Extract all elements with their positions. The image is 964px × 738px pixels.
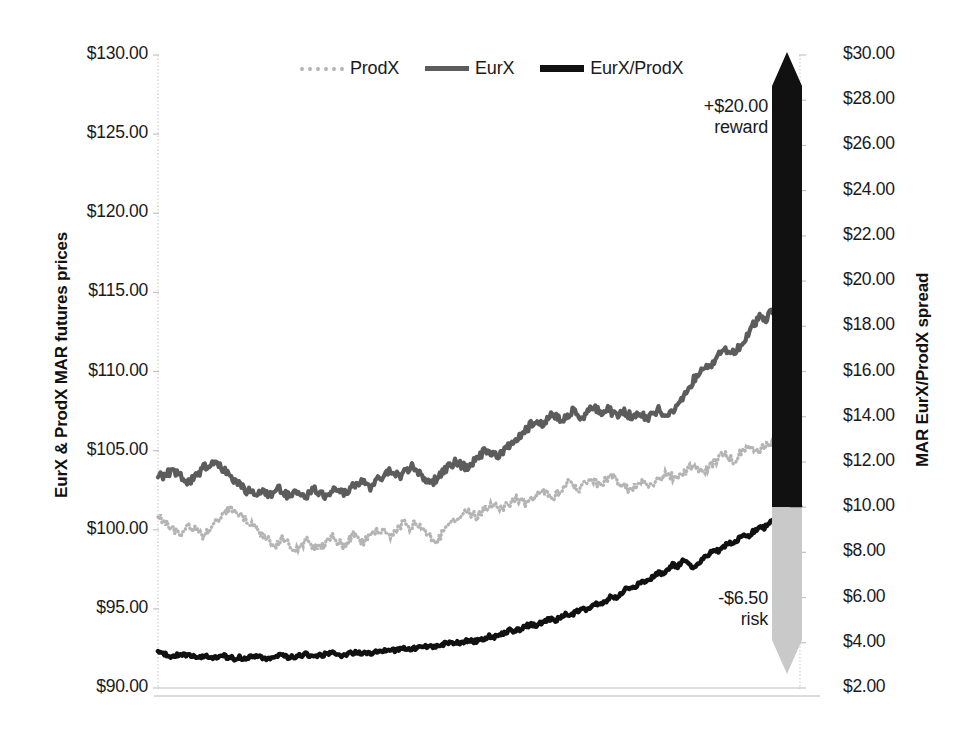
risk-down-arrow-icon xyxy=(772,507,802,674)
plot-area xyxy=(0,0,964,738)
series-line-eurx xyxy=(158,282,800,499)
series-line-spread xyxy=(158,506,800,660)
risk-annotation-label: -$6.50 risk xyxy=(620,588,768,630)
reward-annotation-label: +$20.00 reward xyxy=(620,96,768,138)
chart-container: EurX & ProdX MAR futures prices MAR EurX… xyxy=(0,0,964,738)
